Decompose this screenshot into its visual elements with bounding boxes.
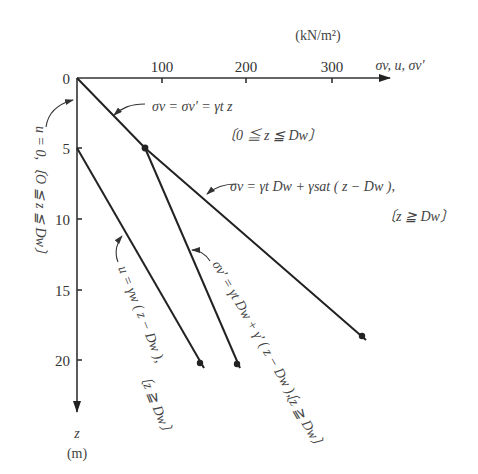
y-tick-5: 5 <box>63 141 71 157</box>
y-tick-0: 0 <box>63 71 71 87</box>
y-axis-unit: (m) <box>67 446 88 462</box>
sigma-v-formula: σv = γt Dw + γsat ( z − Dw ), <box>230 179 395 195</box>
pore-pressure-line <box>77 148 204 368</box>
u-zero-formula: u = 0,〔O ≦ z ≦ Dw〕 <box>33 126 49 261</box>
y-tick-20: 20 <box>55 353 70 369</box>
sigma-v-range: 〔z ≧ Dw〕 <box>382 208 454 224</box>
y-axis <box>77 78 82 412</box>
leader-arrow-icon <box>114 104 145 115</box>
sigma-top-range: 〔0 ≦ z ≦ Dw〕 <box>222 127 322 143</box>
stress-depth-diagram: 100 200 300 0 5 10 15 20 (kN/m²) σv, u, … <box>0 0 478 474</box>
leader-arrow-icon <box>192 250 210 261</box>
sigma-top-formula: σv = σv' = γt z <box>152 99 233 114</box>
y-tick-15: 15 <box>55 283 70 299</box>
leader-arrow-icon <box>116 236 122 262</box>
x-axis-unit: (kN/m²) <box>295 28 341 44</box>
sigma-v-effective-line <box>145 148 240 368</box>
sigma-v-line <box>77 78 366 340</box>
x-axis <box>77 78 390 83</box>
y-axis-label: z <box>73 426 80 441</box>
sigma-eff-range: 〔z ≧ Dw〕 <box>279 384 329 454</box>
u-formula: u = γw ( z − Dw ), <box>114 264 167 365</box>
water-table-point <box>142 145 149 152</box>
x-tick-200: 200 <box>235 59 258 75</box>
x-axis-label: σv, u, σv' <box>375 58 425 73</box>
u-range: 〔z ≧ Dw〕 <box>135 367 177 440</box>
y-tick-10: 10 <box>55 212 70 228</box>
x-tick-300: 300 <box>321 59 344 75</box>
x-tick-100: 100 <box>151 59 174 75</box>
leader-arrow-icon <box>46 100 73 127</box>
